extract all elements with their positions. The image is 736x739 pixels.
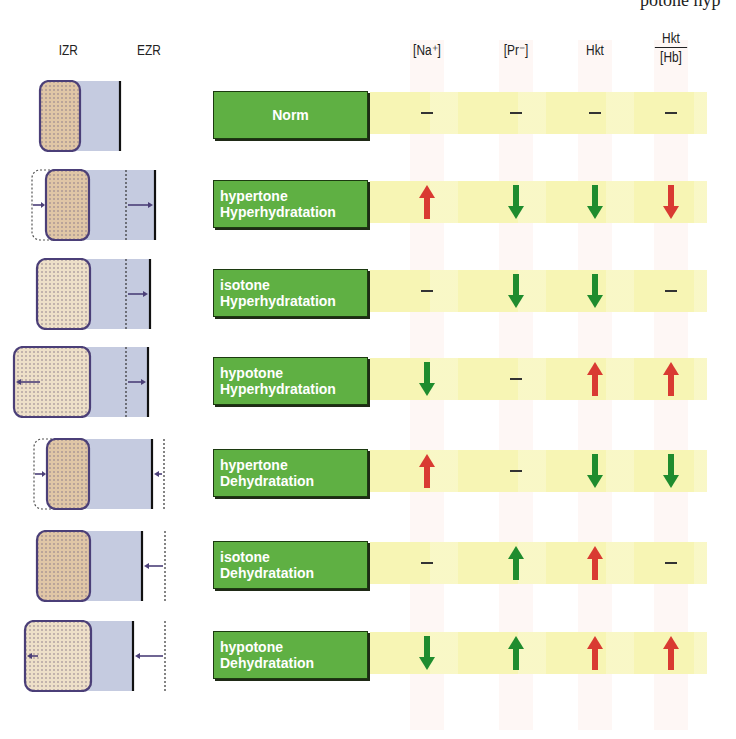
arrow-up-icon	[663, 636, 679, 670]
arrow-down-green-icon	[496, 270, 536, 312]
condition-label: Norm	[213, 91, 368, 139]
arrow-down-green-icon	[575, 181, 615, 223]
compartment-diagram	[0, 80, 200, 156]
compartment-diagram	[0, 620, 200, 696]
cropped-top-text: potone hyp	[640, 0, 721, 11]
arrow-down-icon	[663, 454, 679, 488]
arrow-up-red-icon	[575, 358, 615, 400]
compartment-diagram	[0, 169, 200, 245]
condition-label: hypertoneHyperhydratation	[213, 180, 368, 228]
arrow-down-icon	[663, 185, 679, 219]
dash-icon	[510, 378, 522, 380]
arrow-down-green-icon	[407, 632, 447, 674]
arrow-up-red-icon	[651, 632, 691, 674]
label-line-1: hypertone	[220, 457, 361, 473]
compartment-diagram	[0, 346, 200, 422]
dash-icon	[421, 290, 433, 292]
label-line-2: Hyperhydratation	[220, 381, 361, 397]
arrow-up-icon	[587, 362, 603, 396]
arrow-down-icon	[508, 185, 524, 219]
arrow-up-icon	[508, 546, 524, 580]
label-line-1: hypertone	[220, 188, 361, 204]
arrow-up-icon	[419, 185, 435, 219]
arrow-down-green-icon	[651, 450, 691, 492]
dash-icon	[665, 562, 677, 564]
label-line-1: hypotone	[220, 639, 361, 655]
label-line-2: Dehydratation	[220, 565, 361, 581]
condition-label: isotoneHyperhydratation	[213, 269, 368, 317]
arrow-up-red-icon	[407, 181, 447, 223]
dash-icon	[589, 112, 601, 114]
arrow-down-green-icon	[575, 450, 615, 492]
arrow-down-icon	[419, 636, 435, 670]
label-line-1: Norm	[220, 107, 361, 123]
arrow-down-icon	[587, 454, 603, 488]
header-izr: IZR	[59, 42, 78, 58]
label-line-2: Hyperhydratation	[220, 293, 361, 309]
arrow-up-red-icon	[651, 358, 691, 400]
arrow-up-red-icon	[575, 632, 615, 674]
arrow-down-icon	[419, 362, 435, 396]
no-change-dash-icon	[407, 542, 447, 584]
no-change-dash-icon	[496, 450, 536, 492]
header-pr: [Pr⁻]	[495, 42, 538, 58]
label-line-2: Dehydratation	[220, 473, 361, 489]
compartment-diagram	[0, 438, 200, 514]
arrow-up-icon	[663, 362, 679, 396]
arrow-up-green-icon	[496, 632, 536, 674]
arrow-down-icon	[587, 185, 603, 219]
condition-label: hypotoneHyperhydratation	[213, 357, 368, 405]
no-change-dash-icon	[575, 92, 615, 134]
dash-icon	[665, 112, 677, 114]
header-hkt-hb-fraction: Hkt [Hb]	[655, 30, 687, 65]
no-change-dash-icon	[407, 92, 447, 134]
label-line-1: isotone	[220, 277, 361, 293]
condition-label: hypertoneDehydratation	[213, 449, 368, 497]
arrow-down-icon	[508, 274, 524, 308]
dash-icon	[421, 562, 433, 564]
label-line-1: isotone	[220, 549, 361, 565]
compartment-diagram	[0, 258, 200, 334]
no-change-dash-icon	[496, 92, 536, 134]
label-line-1: hypotone	[220, 365, 361, 381]
no-change-dash-icon	[407, 270, 447, 312]
arrow-down-red-icon	[651, 181, 691, 223]
no-change-dash-icon	[651, 270, 691, 312]
arrow-up-icon	[587, 546, 603, 580]
arrow-up-red-icon	[575, 542, 615, 584]
no-change-dash-icon	[651, 542, 691, 584]
compartment-diagram	[0, 530, 200, 606]
arrow-up-red-icon	[407, 450, 447, 492]
arrow-down-icon	[587, 274, 603, 308]
arrow-down-green-icon	[496, 181, 536, 223]
condition-label: isotoneDehydratation	[213, 541, 368, 589]
label-line-2: Dehydratation	[220, 655, 361, 671]
fraction-numerator: Hkt	[655, 30, 687, 48]
dash-icon	[510, 112, 522, 114]
arrow-up-icon	[419, 454, 435, 488]
header-hkt: Hkt	[578, 42, 612, 58]
dash-icon	[510, 470, 522, 472]
condition-label: hypotoneDehydratation	[213, 631, 368, 679]
header-ezr: EZR	[137, 42, 161, 58]
header-na: [Na⁺]	[406, 42, 449, 58]
arrow-up-icon	[508, 636, 524, 670]
arrow-down-green-icon	[575, 270, 615, 312]
dash-icon	[421, 112, 433, 114]
arrow-down-green-icon	[407, 358, 447, 400]
dash-icon	[665, 290, 677, 292]
fraction-denominator: [Hb]	[655, 48, 687, 65]
no-change-dash-icon	[651, 92, 691, 134]
arrow-up-icon	[587, 636, 603, 670]
arrow-up-green-icon	[496, 542, 536, 584]
no-change-dash-icon	[496, 358, 536, 400]
label-line-2: Hyperhydratation	[220, 204, 361, 220]
